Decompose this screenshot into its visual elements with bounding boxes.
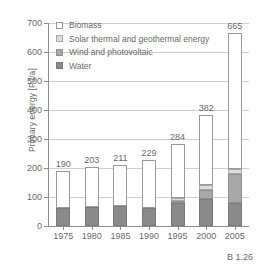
bar-value-label: 284	[170, 132, 185, 142]
bar-segment-water	[85, 207, 99, 226]
x-axis-tick	[92, 226, 93, 230]
y-axis-tick-label: 600	[27, 47, 42, 57]
bar-segment-biomass	[171, 144, 185, 199]
bar-segment-biomass	[199, 115, 213, 185]
legend-label: Water	[69, 61, 91, 71]
bar-1995: 284	[171, 144, 185, 226]
legend-label: Biomass	[69, 20, 102, 30]
x-axis-tick-label: 1980	[82, 231, 102, 241]
x-axis-tick	[149, 226, 150, 230]
bar-value-label: 211	[113, 153, 127, 163]
bar-value-label: 382	[199, 103, 214, 113]
bar-segment-biomass	[113, 165, 127, 206]
x-axis-tick-label: 1990	[139, 231, 159, 241]
x-axis-tick-label: 2000	[196, 231, 216, 241]
energy-chart: Primary energy [PJ/a] 010020030040050060…	[0, 0, 262, 270]
y-axis-tick-label: 200	[27, 163, 42, 173]
bar-segment-water	[113, 206, 127, 226]
y-axis-tick-label: 500	[27, 76, 42, 86]
bar-value-label: 190	[56, 159, 71, 169]
gridline	[49, 81, 249, 82]
legend-swatch-wind-icon	[56, 49, 63, 56]
bar-segment-biomass	[142, 160, 156, 208]
legend-item-water: Water	[56, 61, 209, 71]
bar-segment-biomass	[85, 167, 99, 207]
bar-value-label: 229	[141, 148, 156, 158]
bar-segment-biomass	[56, 171, 70, 208]
x-axis-tick-label: 1975	[53, 231, 73, 241]
y-axis-tick	[44, 168, 49, 169]
y-axis-tick-label: 0	[37, 221, 42, 231]
y-axis-tick	[44, 197, 49, 198]
y-axis-tick	[44, 226, 49, 227]
x-axis-tick	[206, 226, 207, 230]
bar-1980: 203	[85, 167, 99, 226]
x-axis-tick	[63, 226, 64, 230]
legend-swatch-water-icon	[56, 62, 63, 69]
x-axis-tick-label: 2005	[225, 231, 245, 241]
bar-1985: 211	[113, 165, 127, 226]
bar-segment-biomass	[228, 33, 242, 169]
legend-item-solar: Solar thermal and geothermal energy	[56, 34, 209, 44]
y-axis-tick	[44, 139, 49, 140]
gridline	[49, 139, 249, 140]
chart-legend: BiomassSolar thermal and geothermal ener…	[56, 20, 209, 71]
bar-segment-wind	[228, 174, 242, 204]
y-axis-tick-label: 400	[27, 105, 42, 115]
x-axis-tick	[178, 226, 179, 230]
figure-caption: B 1.26	[227, 252, 253, 262]
y-axis-tick	[44, 81, 49, 82]
y-axis-tick-label: 100	[27, 192, 42, 202]
x-axis-tick-label: 1985	[110, 231, 130, 241]
bar-2005: 665	[228, 33, 242, 226]
bar-segment-water	[228, 203, 242, 226]
bar-value-label: 665	[227, 21, 242, 31]
y-axis-tick	[44, 110, 49, 111]
legend-label: Solar thermal and geothermal energy	[69, 34, 209, 44]
x-axis-tick	[235, 226, 236, 230]
legend-swatch-biomass-icon	[56, 22, 63, 29]
bar-segment-wind	[199, 190, 213, 200]
y-axis-tick	[44, 52, 49, 53]
bar-value-label: 203	[84, 155, 99, 165]
bar-segment-water	[56, 208, 70, 226]
bar-2000: 382	[199, 115, 213, 226]
bar-segment-water	[199, 199, 213, 226]
legend-item-biomass: Biomass	[56, 20, 209, 30]
legend-swatch-solar-icon	[56, 35, 63, 42]
y-axis-tick-label: 700	[27, 18, 42, 28]
y-axis-tick-label: 300	[27, 134, 42, 144]
legend-item-wind: Wind and photovoltaic	[56, 47, 209, 57]
gridline	[49, 110, 249, 111]
bar-segment-water	[171, 203, 185, 226]
bar-1990: 229	[142, 160, 156, 226]
y-axis-tick	[44, 23, 49, 24]
x-axis-tick-label: 1995	[168, 231, 188, 241]
x-axis-tick	[120, 226, 121, 230]
legend-label: Wind and photovoltaic	[69, 47, 153, 57]
bar-segment-water	[142, 208, 156, 226]
bar-1975: 190	[56, 171, 70, 226]
